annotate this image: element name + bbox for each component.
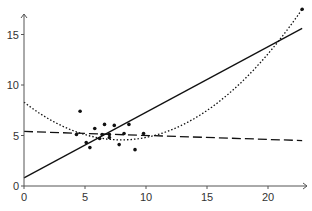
data-point — [78, 109, 82, 113]
data-point — [93, 127, 97, 131]
data-point — [100, 133, 104, 137]
solid-fit-line — [24, 28, 302, 177]
data-point — [84, 141, 88, 145]
scatter-chart: 05101520051015 — [0, 0, 312, 211]
quadratic-fit-curve — [24, 9, 302, 140]
x-tick-label: 15 — [201, 191, 213, 203]
data-point — [112, 124, 116, 128]
plot-area — [24, 7, 304, 177]
data-point — [122, 132, 126, 136]
data-point — [98, 137, 102, 141]
y-tick-label: 15 — [7, 29, 19, 41]
x-tick-label: 20 — [262, 191, 274, 203]
data-point — [103, 123, 107, 127]
data-point — [117, 143, 121, 147]
y-tick-label: 5 — [13, 130, 19, 142]
data-point — [142, 132, 146, 136]
data-point — [108, 136, 112, 140]
data-point — [300, 7, 304, 11]
y-tick-label: 0 — [13, 180, 19, 192]
dashed-fit-line — [24, 131, 302, 140]
data-point — [133, 148, 137, 152]
x-tick-label: 5 — [82, 191, 88, 203]
axes — [21, 14, 307, 189]
data-point — [88, 146, 92, 150]
data-point — [127, 123, 131, 127]
data-point — [75, 133, 79, 137]
y-tick-label: 10 — [7, 79, 19, 91]
x-tick-label: 0 — [21, 191, 27, 203]
x-tick-label: 10 — [140, 191, 152, 203]
